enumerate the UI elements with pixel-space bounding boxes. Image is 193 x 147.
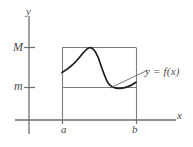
axis-tick-label-left-endpoint: a bbox=[61, 124, 67, 135]
extreme-value-theorem-figure: y x M m a b y = f(x) bbox=[0, 0, 193, 147]
function-curve bbox=[62, 48, 136, 89]
y-axis-label: y bbox=[26, 6, 31, 17]
axis-tick-label-upper-bound: M bbox=[13, 41, 23, 53]
function-label-leader-line bbox=[110, 70, 148, 88]
x-axis-label: x bbox=[177, 110, 182, 121]
function-annotation-label: y = f(x) bbox=[145, 66, 180, 77]
axis-tick-label-lower-bound: m bbox=[14, 80, 23, 92]
axis-tick-label-right-endpoint: b bbox=[132, 124, 138, 135]
